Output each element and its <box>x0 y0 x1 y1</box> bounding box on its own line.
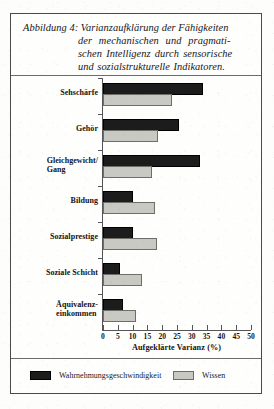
bar-wissen <box>103 166 152 179</box>
y-tick <box>98 294 102 295</box>
x-tick <box>207 325 208 330</box>
y-axis-label: Gehör <box>76 124 98 133</box>
caption-line-3: schen Intelligenz durch sensorische <box>23 47 254 60</box>
x-tick-label: 25 <box>173 332 181 341</box>
y-axis-label: Sehschärfe <box>60 88 98 97</box>
x-tick <box>147 325 148 330</box>
x-tick <box>177 325 178 330</box>
y-tick <box>98 222 102 223</box>
y-axis-label: Bildung <box>71 196 98 205</box>
bar-wissen <box>103 130 158 143</box>
y-axis-category-labels: SehschärfeGehörGleichgewicht/ GangBildun… <box>11 76 102 328</box>
bar-wissen <box>103 202 155 215</box>
x-tick-label: 5 <box>116 332 120 341</box>
x-tick-label: 40 <box>218 332 226 341</box>
x-tick <box>162 325 163 330</box>
chart-plot-area: SehschärfeGehörGleichgewicht/ GangBildun… <box>11 76 261 358</box>
y-tick <box>98 150 102 151</box>
bar-wissen <box>103 94 172 107</box>
caption-line-1: Abbildung 4: Varianzaufklärung der Fähig… <box>23 21 254 34</box>
y-axis-label: Gleichgewicht/ Gang <box>47 156 98 175</box>
x-axis-line <box>102 330 251 331</box>
legend-label: Wissen <box>202 371 225 380</box>
y-tick <box>98 78 102 79</box>
bar-wissen <box>103 310 136 323</box>
x-tick-label: 15 <box>144 332 152 341</box>
x-axis-title: Aufgeklärte Varianz (%) <box>102 343 251 352</box>
x-tick <box>103 325 104 330</box>
x-tick <box>221 325 222 330</box>
figure-page: Abbildung 4: Varianzaufklärung der Fähig… <box>0 0 274 409</box>
y-axis-label: Soziale Schicht <box>46 268 98 277</box>
y-axis-label: Sozialprestige <box>50 232 98 241</box>
x-tick <box>118 325 119 330</box>
x-tick-label: 45 <box>232 332 240 341</box>
x-tick <box>236 325 237 330</box>
legend-label: Wahrnehmungsgeschwindigkeit <box>59 371 161 380</box>
x-tick-label: 0 <box>101 332 105 341</box>
x-tick-label: 50 <box>247 332 255 341</box>
caption-line-2: der mechanischen und pragmati- <box>23 34 254 47</box>
legend-swatch-light-icon <box>173 371 194 380</box>
caption-line-4: und sozialstrukturelle Indikatoren. <box>23 60 254 73</box>
y-tick <box>98 186 102 187</box>
bar-wissen <box>103 274 142 287</box>
x-tick-label: 35 <box>203 332 211 341</box>
x-tick-label: 30 <box>188 332 196 341</box>
x-tick <box>192 325 193 330</box>
y-axis-label: Äquivalenz- einkommen <box>56 300 98 319</box>
x-tick <box>251 325 252 330</box>
legend-item-wahrnehmungsgeschwindigkeit: Wahrnehmungsgeschwindigkeit <box>30 371 161 380</box>
figure-frame: Abbildung 4: Varianzaufklärung der Fähig… <box>10 13 262 394</box>
x-tick <box>133 325 134 330</box>
legend-swatch-dark-icon <box>30 371 51 380</box>
y-tick <box>98 258 102 259</box>
x-tick-label: 20 <box>158 332 166 341</box>
chart-legend: Wahrnehmungsgeschwindigkeit Wissen <box>11 359 261 394</box>
figure-caption: Abbildung 4: Varianzaufklärung der Fähig… <box>23 21 254 73</box>
y-tick <box>98 114 102 115</box>
bar-wissen <box>103 238 157 251</box>
legend-item-wissen: Wissen <box>173 371 225 380</box>
x-tick-label: 10 <box>129 332 137 341</box>
